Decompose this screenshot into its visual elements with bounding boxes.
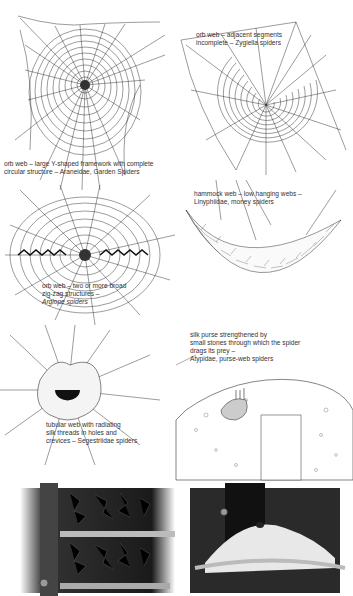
caption-hammock-web: hammock web – low hanging webs – Linyphi… bbox=[194, 190, 302, 206]
figure-purse-web: silk purse strengthened by small stones … bbox=[176, 320, 353, 480]
tubular-web-illustration bbox=[0, 325, 180, 475]
figure-orb-web-zygiella: orb web – adjacent segments incomplete –… bbox=[176, 0, 353, 180]
caption-purse-web: silk purse strengthened by small stones … bbox=[190, 331, 300, 363]
funnel-corner-illustration bbox=[185, 483, 353, 596]
zygiella-web-illustration bbox=[176, 0, 353, 180]
figure-tubular-web: tubular web with radiating silk threads … bbox=[0, 325, 180, 475]
caption-orb-web-zygiella: orb web – adjacent segments incomplete –… bbox=[196, 31, 282, 47]
figure-orb-web-araneidae: orb web – large Y-shaped framework with … bbox=[0, 0, 180, 190]
caption-tubular-web: tubular web with radiating silk threads … bbox=[46, 421, 137, 445]
figure-cobweb-shelf-drawing bbox=[15, 483, 180, 596]
caption-orb-web-araneidae: orb web – large Y-shaped framework with … bbox=[4, 160, 154, 176]
figure-funnel-corner-drawing bbox=[185, 483, 353, 596]
caption-orb-web-argiope: orb web – two or more broad zig-zag stru… bbox=[42, 282, 126, 306]
cobweb-shelf-illustration bbox=[15, 483, 180, 596]
figure-orb-web-argiope: orb web – two or more broad zig-zag stru… bbox=[0, 185, 180, 325]
figure-hammock-web: hammock web – low hanging webs – Linyphi… bbox=[176, 180, 353, 320]
